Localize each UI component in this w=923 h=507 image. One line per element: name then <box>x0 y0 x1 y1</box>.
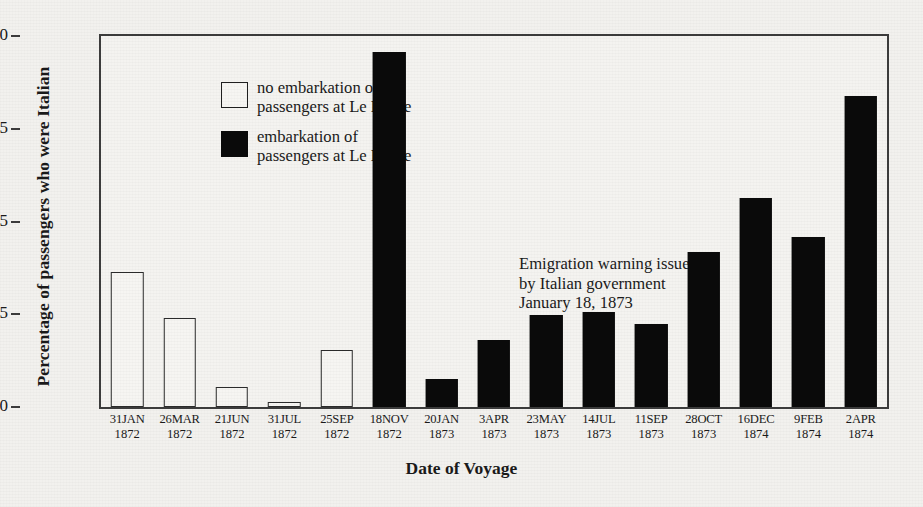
bar-slot <box>782 36 834 407</box>
y-axis-tick-mark <box>11 221 20 223</box>
x-label-year: 1874 <box>835 427 887 442</box>
bar[interactable] <box>321 350 353 407</box>
y-axis-tick-label: 17.5 <box>0 303 8 323</box>
bar-slot <box>258 36 310 407</box>
y-axis-tick-label: 52.5 <box>0 118 8 138</box>
x-axis-tick-label: 11SEP1873 <box>625 412 677 441</box>
bar[interactable] <box>111 272 143 407</box>
x-label-year: 1872 <box>363 427 415 442</box>
bar-slot <box>520 36 572 407</box>
x-axis-tick-label: 28OCT1873 <box>677 412 729 441</box>
bar[interactable] <box>635 324 667 407</box>
bar-slot <box>206 36 258 407</box>
x-axis-tick-label: 14JUL1873 <box>573 412 625 441</box>
x-label-day-month: 18NOV <box>363 412 415 427</box>
y-axis-tick-label: 0 <box>0 396 8 416</box>
bar[interactable] <box>216 387 248 407</box>
y-axis-tick-mark <box>11 313 20 315</box>
bar[interactable] <box>478 340 510 407</box>
bar[interactable] <box>583 312 615 407</box>
x-label-day-month: 16DEC <box>730 412 782 427</box>
bar[interactable] <box>163 318 195 407</box>
x-axis-tick-label: 18NOV1872 <box>363 412 415 441</box>
x-label-year: 1873 <box>625 427 677 442</box>
bar[interactable] <box>687 252 719 407</box>
y-axis-tick-label: 70 <box>0 25 8 45</box>
x-label-year: 1872 <box>206 427 258 442</box>
bar-slot <box>468 36 520 407</box>
x-label-day-month: 26MAR <box>153 412 205 427</box>
x-label-year: 1873 <box>415 427 467 442</box>
bar-slot <box>625 36 677 407</box>
x-label-day-month: 9FEB <box>782 412 834 427</box>
x-label-year: 1873 <box>573 427 625 442</box>
x-axis-tick-label: 26MAR1872 <box>153 412 205 441</box>
x-label-year: 1872 <box>311 427 363 442</box>
x-axis-title: Date of Voyage <box>0 458 923 479</box>
bar[interactable] <box>845 96 877 407</box>
y-axis-tick-mark <box>11 128 20 130</box>
x-label-year: 1873 <box>468 427 520 442</box>
x-label-year: 1872 <box>153 427 205 442</box>
x-axis-tick-label: 31JUL1872 <box>258 412 310 441</box>
bar[interactable] <box>425 379 457 407</box>
x-label-year: 1874 <box>782 427 834 442</box>
x-axis-tick-label: 2APR1874 <box>835 412 887 441</box>
bar-slot <box>835 36 887 407</box>
x-label-year: 1874 <box>730 427 782 442</box>
x-label-day-month: 31JAN <box>101 412 153 427</box>
x-label-year: 1872 <box>101 427 153 442</box>
bar[interactable] <box>373 52 405 407</box>
x-label-day-month: 23MAY <box>520 412 572 427</box>
bar[interactable] <box>530 315 562 407</box>
x-axis-tick-label: 23MAY1873 <box>520 412 572 441</box>
x-axis-tick-labels: 31JAN187226MAR187221JUN187231JUL187225SE… <box>101 412 887 456</box>
bar-slot <box>363 36 415 407</box>
x-axis-tick-label: 9FEB1874 <box>782 412 834 441</box>
x-label-day-month: 31JUL <box>258 412 310 427</box>
y-axis-tick-mark <box>11 35 20 37</box>
bar[interactable] <box>792 237 824 407</box>
x-label-day-month: 3APR <box>468 412 520 427</box>
x-axis-tick-label: 31JAN1872 <box>101 412 153 441</box>
x-label-day-month: 20JAN <box>415 412 467 427</box>
x-axis-tick-label: 25SEP1872 <box>311 412 363 441</box>
x-axis-tick-label: 21JUN1872 <box>206 412 258 441</box>
bar[interactable] <box>740 198 772 407</box>
bar[interactable] <box>268 402 300 407</box>
x-label-day-month: 2APR <box>835 412 887 427</box>
bar-slot <box>311 36 363 407</box>
x-axis-tick-label: 20JAN1873 <box>415 412 467 441</box>
x-label-day-month: 11SEP <box>625 412 677 427</box>
x-label-day-month: 21JUN <box>206 412 258 427</box>
bar-slot <box>415 36 467 407</box>
x-label-year: 1873 <box>520 427 572 442</box>
x-label-year: 1873 <box>677 427 729 442</box>
x-label-day-month: 25SEP <box>311 412 363 427</box>
x-axis-tick-label: 16DEC1874 <box>730 412 782 441</box>
bar-slot <box>730 36 782 407</box>
y-axis-title: Percentage of passengers who were Italia… <box>33 32 54 422</box>
bar-slot <box>101 36 153 407</box>
chart-page: Percentage of passengers who were Italia… <box>0 0 923 507</box>
bar-slot <box>153 36 205 407</box>
y-axis-tick-label: 35 <box>0 211 8 231</box>
x-label-day-month: 28OCT <box>677 412 729 427</box>
x-label-year: 1872 <box>258 427 310 442</box>
x-axis-tick-label: 3APR1873 <box>468 412 520 441</box>
bar-slot <box>573 36 625 407</box>
x-label-day-month: 14JUL <box>573 412 625 427</box>
bars-layer <box>101 36 887 407</box>
bar-slot <box>677 36 729 407</box>
y-axis-tick-mark <box>11 406 20 408</box>
